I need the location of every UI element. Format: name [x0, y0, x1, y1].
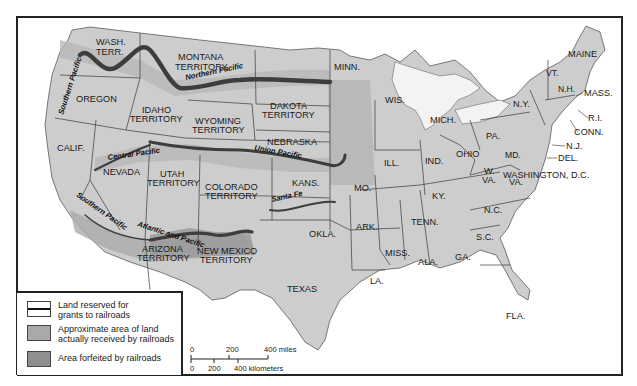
label-ohio: OHIO — [456, 149, 479, 159]
reserved-land-swatch — [27, 301, 51, 317]
label-wyoming-terr: TERRITORY — [192, 125, 245, 135]
label-kans: KANS. — [292, 178, 320, 188]
map-legend: Land reserved for grants to railroads Ap… — [17, 291, 183, 375]
label-mass: MASS. — [584, 88, 613, 98]
label-idaho-terr: TERRITORY — [130, 114, 183, 124]
label-ala: ALA. — [418, 257, 438, 267]
label-minn: MINN. — [334, 62, 360, 72]
label-dc: WASHINGTON, D.C. — [503, 170, 589, 180]
label-ny: N.Y. — [513, 99, 530, 109]
label-ill: ILL. — [384, 158, 399, 168]
label-nc: N.C. — [484, 205, 502, 215]
label-wis: WIS. — [385, 95, 405, 105]
received-area-iowa — [328, 80, 375, 185]
forfeited-land-swatch — [27, 351, 51, 367]
label-md: MD. — [505, 150, 521, 160]
label-wash: WASH. — [96, 37, 126, 47]
legend-forfeited-line1: Area forfeited by railroads — [58, 354, 161, 364]
label-arizona-terr: TERRITORY — [137, 253, 190, 263]
label-nebraska: NEBRASKA — [267, 137, 318, 147]
label-calif: CALIF. — [57, 143, 85, 153]
label-sc: S.C. — [476, 232, 494, 242]
label-ri: R.I. — [588, 113, 602, 123]
label-del: DEL. — [558, 153, 578, 163]
label-nj: N.J. — [566, 141, 582, 151]
label-la: LA. — [370, 276, 384, 286]
label-ark: ARK. — [356, 222, 377, 232]
label-mo: MO. — [354, 183, 371, 193]
label-wash-terr: TERR. — [96, 47, 124, 57]
scale-ruler — [190, 354, 270, 364]
legend-received-line2: actually received by railroads — [58, 335, 174, 345]
label-dakota-terr: TERRITORY — [262, 110, 315, 120]
label-newmexico-terr: TERRITORY — [200, 255, 253, 265]
label-okla: OKLA. — [309, 229, 336, 239]
label-miss: MISS. — [385, 248, 410, 258]
scale-km-0: 0 — [190, 364, 194, 373]
scale-km-200: 200 — [208, 364, 221, 373]
scale-km-400: 400 kilometers — [234, 364, 283, 373]
label-vt: VT. — [546, 68, 558, 78]
label-utah-terr: TERRITORY — [147, 178, 200, 188]
legend-item-received: Approximate area of land actually receiv… — [27, 325, 174, 344]
label-wva2: VA. — [482, 175, 496, 185]
label-pa: PA. — [486, 131, 500, 141]
scale-miles-200: 200 — [226, 345, 239, 354]
label-ga: GA. — [455, 252, 471, 262]
legend-item-forfeited: Area forfeited by railroads — [27, 351, 161, 367]
label-maine: MAINE — [568, 49, 597, 59]
label-nh: N.H. — [558, 84, 575, 94]
label-ind: IND. — [425, 156, 443, 166]
label-oregon: OREGON — [76, 94, 117, 104]
received-land-swatch — [27, 325, 51, 341]
label-tenn: TENN. — [411, 217, 439, 227]
label-texas: TEXAS — [287, 284, 317, 294]
legend-item-reserved: Land reserved for grants to railroads — [27, 301, 130, 320]
label-colorado-terr: TERRITORY — [205, 191, 258, 201]
legend-reserved-line2: grants to railroads — [58, 311, 130, 321]
scale-bar: 0 200 400 miles 0 200 400 kilometers — [190, 345, 310, 377]
label-fla: FLA. — [506, 311, 525, 321]
scale-miles-0: 0 — [190, 345, 194, 354]
label-montana: MONTANA — [178, 52, 224, 62]
label-ky: KY. — [432, 191, 446, 201]
label-conn: CONN. — [574, 127, 604, 137]
scale-miles-400: 400 miles — [264, 345, 297, 354]
label-nevada: NEVADA — [103, 167, 141, 177]
label-mich: MICH. — [430, 115, 456, 125]
